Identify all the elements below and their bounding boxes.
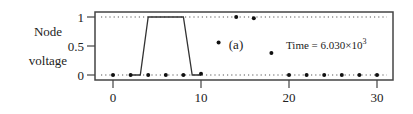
- x-tick-label: 0: [110, 90, 117, 105]
- data-point: [305, 73, 309, 77]
- data-point: [164, 73, 168, 77]
- time-annotation: Time = 6.030×103: [286, 37, 366, 51]
- y-tick-label: 0.5: [68, 39, 84, 54]
- time-annotation-exponent: 3: [362, 37, 366, 46]
- y-label-line-2: voltage: [29, 53, 67, 68]
- x-tick-label: 30: [371, 90, 384, 105]
- data-point: [287, 73, 291, 77]
- data-point: [111, 73, 115, 77]
- data-point: [269, 51, 273, 55]
- data-point: [340, 73, 344, 77]
- chart: 010203000.51 Node voltage (a) Time = 6.0…: [0, 0, 413, 114]
- y-label-line-1: Node: [34, 24, 62, 39]
- x-tick-label: 10: [195, 90, 208, 105]
- panel-label: (a): [229, 37, 243, 52]
- time-annotation-prefix: Time = 6.030×10: [286, 39, 363, 51]
- x-tick-label: 20: [283, 90, 296, 105]
- y-tick-label: 1: [78, 10, 85, 25]
- data-point: [234, 15, 238, 19]
- data-point: [129, 73, 133, 77]
- y-tick-label: 0: [78, 68, 85, 83]
- data-point: [252, 16, 256, 20]
- data-point: [199, 72, 203, 76]
- data-point: [181, 73, 185, 77]
- pulse-line: [131, 17, 201, 75]
- data-point: [322, 73, 326, 77]
- data-point: [217, 41, 221, 45]
- data-point: [357, 73, 361, 77]
- data-point: [146, 73, 150, 77]
- data-point: [375, 73, 379, 77]
